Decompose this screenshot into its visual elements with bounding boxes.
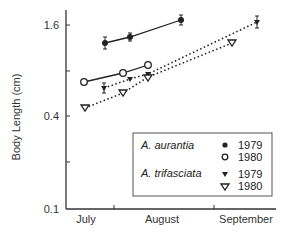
y-tick-label-0.4: 0.4: [44, 110, 59, 122]
filled-triangle-marker: [101, 86, 107, 91]
filled-circle-marker: [102, 40, 108, 46]
open-circle-marker: [120, 70, 127, 77]
legend-species-aurantia: A. aurantia: [140, 139, 194, 151]
chart: 1.6 0.4 0.1 Body Length (cm) July August…: [0, 0, 285, 233]
legend-year: 1980: [238, 180, 262, 192]
open-circle-marker: [81, 79, 88, 86]
series-trifasciata-1979: [101, 16, 260, 93]
series-aurantia-1980: [81, 62, 152, 86]
legend: A. aurantia 1979 1980 A. trifasciata 197…: [133, 133, 272, 196]
y-tick-label-1.6: 1.6: [44, 19, 59, 31]
x-tick-label-august: August: [145, 213, 179, 225]
legend-year: 1979: [238, 168, 262, 180]
legend-open-circle-icon: [222, 154, 228, 160]
open-triangle-marker: [228, 40, 236, 46]
series-trifasciata-1980: [81, 40, 236, 111]
x-tick-label-july: July: [76, 213, 96, 225]
open-triangle-marker: [81, 105, 89, 111]
open-circle-marker: [145, 62, 152, 69]
legend-filled-circle-icon: [222, 142, 227, 147]
open-triangle-marker: [144, 75, 152, 81]
open-triangle-marker: [119, 90, 127, 96]
x-tick-label-september: September: [219, 213, 273, 225]
filled-circle-marker: [178, 17, 184, 23]
legend-year: 1979: [238, 139, 262, 151]
y-tick-label-0.1: 0.1: [44, 203, 59, 215]
y-axis-title: Body Length (cm): [10, 74, 22, 161]
legend-species-trifasciata: A. trifasciata: [140, 167, 202, 179]
legend-year: 1980: [238, 151, 262, 163]
series-aurantia-1979: [102, 15, 184, 49]
filled-circle-marker: [127, 34, 133, 40]
